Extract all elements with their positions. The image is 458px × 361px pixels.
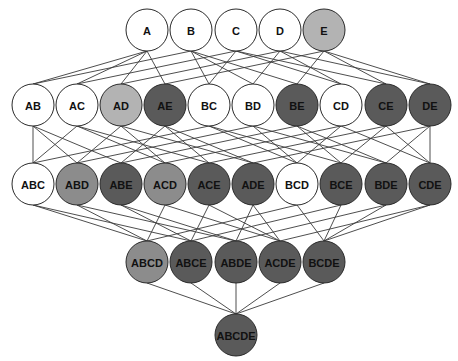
- edge-ABCE-ABCDE: [191, 283, 236, 314]
- node-label: AD: [113, 100, 129, 112]
- edge-C-AC: [77, 51, 236, 84]
- node-ABE: ABE: [100, 163, 142, 205]
- node-label: BC: [201, 100, 217, 112]
- edge-CD-ACD: [165, 126, 341, 163]
- node-E: E: [303, 9, 345, 51]
- node-D: D: [259, 9, 301, 51]
- node-label: D: [276, 25, 284, 37]
- node-ADE: ADE: [232, 163, 274, 205]
- node-label: AC: [69, 100, 85, 112]
- node-AC: AC: [56, 84, 98, 126]
- edge-BE-ABE: [121, 126, 297, 163]
- node-label: E: [320, 25, 327, 37]
- node-label: BCE: [329, 179, 352, 191]
- edge-ACD-ABCD: [147, 205, 165, 241]
- node-ABCE: ABCE: [170, 241, 212, 283]
- edge-ACE-ABCE: [191, 205, 209, 241]
- edge-CDE-ACDE: [280, 205, 430, 241]
- edge-BCE-ABCE: [191, 205, 341, 241]
- edge-B-AB: [33, 51, 191, 84]
- node-CD: CD: [320, 84, 362, 126]
- node-label: ADE: [241, 179, 264, 191]
- node-label: A: [143, 25, 151, 37]
- node-C: C: [215, 9, 257, 51]
- node-AD: AD: [100, 84, 142, 126]
- edge-BD-ABD: [77, 126, 253, 163]
- node-ACDE: ACDE: [259, 241, 301, 283]
- node-label: BD: [245, 100, 261, 112]
- node-label: BCDE: [308, 257, 339, 269]
- node-label: CDE: [418, 179, 441, 191]
- node-BCD: BCD: [276, 163, 318, 205]
- edge-BCD-ABCD: [147, 205, 297, 241]
- node-label: ACDE: [264, 257, 295, 269]
- edge-ABD-ABCD: [77, 205, 147, 241]
- node-ABCDE: ABCDE: [215, 314, 257, 356]
- node-label: AB: [25, 100, 41, 112]
- node-label: ABCDE: [216, 330, 255, 342]
- node-CDE: CDE: [409, 163, 451, 205]
- node-label: CE: [378, 100, 393, 112]
- node-label: ABC: [21, 179, 45, 191]
- node-label: DE: [422, 100, 437, 112]
- node-ABC: ABC: [12, 163, 54, 205]
- node-label: BE: [289, 100, 304, 112]
- edge-AB-ABE: [33, 126, 121, 163]
- node-BC: BC: [188, 84, 230, 126]
- node-label: ABCD: [131, 257, 163, 269]
- edge-CE-BCE: [341, 126, 386, 163]
- node-label: CD: [333, 100, 349, 112]
- node-label: BDE: [374, 179, 397, 191]
- node-label: ACD: [153, 179, 177, 191]
- node-ABD: ABD: [56, 163, 98, 205]
- edge-CE-ACE: [209, 126, 386, 163]
- node-label: ABCE: [175, 257, 206, 269]
- edge-ABCD-ABCDE: [147, 283, 236, 314]
- node-CE: CE: [365, 84, 407, 126]
- edge-ADE-ABDE: [236, 205, 253, 241]
- node-ACD: ACD: [144, 163, 186, 205]
- edge-A-AB: [33, 51, 147, 84]
- edge-AE-ACE: [165, 126, 209, 163]
- node-label: AE: [157, 100, 172, 112]
- node-BD: BD: [232, 84, 274, 126]
- edge-CD-CDE: [341, 126, 430, 163]
- node-AB: AB: [12, 84, 54, 126]
- edge-ACDE-ABCDE: [236, 283, 280, 314]
- node-label: ABE: [109, 179, 132, 191]
- node-BE: BE: [276, 84, 318, 126]
- node-ACE: ACE: [188, 163, 230, 205]
- edge-AD-ABD: [77, 126, 121, 163]
- node-BCE: BCE: [320, 163, 362, 205]
- node-label: BCD: [285, 179, 309, 191]
- subset-lattice-diagram: ABCDEABACADAEBCBDBECDCEDEABCABDABEACDACE…: [0, 0, 458, 361]
- edge-BC-ABC: [33, 126, 209, 163]
- edge-BD-BCD: [253, 126, 297, 163]
- node-label: ACE: [197, 179, 220, 191]
- node-ABCD: ABCD: [126, 241, 168, 283]
- edge-ABC-ABCD: [33, 205, 147, 241]
- node-label: ABD: [65, 179, 89, 191]
- node-BDE: BDE: [365, 163, 407, 205]
- node-label: B: [187, 25, 195, 37]
- node-B: B: [170, 9, 212, 51]
- node-A: A: [126, 9, 168, 51]
- node-DE: DE: [409, 84, 451, 126]
- node-label: C: [232, 25, 240, 37]
- edge-BDE-ABDE: [236, 205, 386, 241]
- node-BCDE: BCDE: [303, 241, 345, 283]
- node-AE: AE: [144, 84, 186, 126]
- node-label: ABDE: [220, 257, 251, 269]
- edge-BCDE-ABCDE: [236, 283, 324, 314]
- edge-DE-ADE: [253, 126, 430, 163]
- node-ABDE: ABDE: [215, 241, 257, 283]
